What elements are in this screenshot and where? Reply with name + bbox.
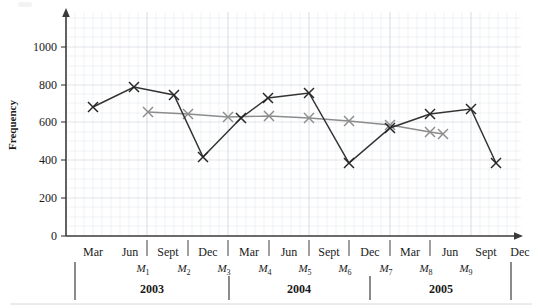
ma-marker-m8: M8 (418, 262, 432, 277)
scan-artifact (18, 2, 32, 7)
ma-marker-m7: M7 (378, 262, 392, 277)
xtick-label-mar-2005: Mar (400, 245, 420, 259)
year-label-2003: 2003 (140, 282, 164, 296)
ytick-label-200: 200 (39, 191, 57, 205)
y-axis-arrowhead (62, 8, 70, 17)
year-group-labels: 2003 2004 2005 (140, 282, 453, 296)
frequency-line-chart: 1000 800 600 400 200 0 Frequency (0, 0, 542, 307)
series-quarterly-frequency (88, 82, 501, 168)
ytick-label-400: 400 (39, 153, 57, 167)
chart-container: 1000 800 600 400 200 0 Frequency (0, 0, 542, 307)
ma-marker-m6: M6 (337, 262, 351, 277)
ma-marker-m3: M3 (216, 262, 230, 277)
x-axis-tick-labels: Mar Jun Sept Dec Mar Jun Sept Dec Mar Ju… (83, 245, 530, 259)
year-label-2004: 2004 (287, 282, 311, 296)
xtick-label-dec-2004: Dec (360, 245, 379, 259)
xtick-label-sept-2004: Sept (318, 245, 340, 259)
xtick-label-mar-2003: Mar (83, 245, 103, 259)
xtick-label-jun-2004: Jun (281, 245, 298, 259)
xtick-label-sept-2005: Sept (475, 245, 497, 259)
x-axis (66, 232, 523, 240)
xtick-label-jun-2003: Jun (122, 245, 139, 259)
y-axis-tick-labels: 1000 800 600 400 200 0 (33, 40, 57, 243)
ma-marker-m2: M2 (176, 262, 190, 277)
ma-marker-m4: M4 (257, 262, 271, 277)
grid-major-vertical (147, 12, 471, 236)
ytick-label-800: 800 (39, 78, 57, 92)
grid-minor-vertical (75, 12, 516, 236)
moving-average-markers: M1 M2 M3 M4 M5 M6 M7 M8 M9 (135, 262, 472, 277)
xtick-label-mar-2004: Mar (239, 245, 259, 259)
year-label-2005: 2005 (429, 282, 453, 296)
y-axis-title: Frequency (6, 100, 18, 150)
xtick-label-jun-2005: Jun (442, 245, 459, 259)
xtick-label-sept-2003: Sept (157, 245, 179, 259)
ytick-label-1000: 1000 (33, 40, 57, 54)
ma-marker-m9: M9 (458, 262, 472, 277)
ma-marker-m5: M5 (297, 262, 311, 277)
ytick-label-600: 600 (39, 115, 57, 129)
x-axis-arrowhead (514, 232, 523, 240)
ytick-label-0: 0 (51, 229, 57, 243)
xtick-label-dec-2003: Dec (198, 245, 217, 259)
ma-marker-m1: M1 (135, 262, 149, 277)
xtick-label-dec-2005: Dec (510, 245, 529, 259)
